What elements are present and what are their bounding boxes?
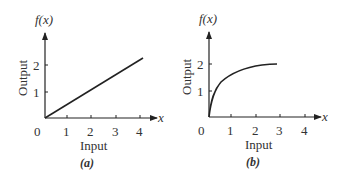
y-tick-label: 2 [197, 57, 204, 72]
x-tick-label: 1 [63, 124, 70, 139]
x-tick-label: 0 [198, 123, 205, 138]
x-tick-label: 1 [227, 123, 234, 138]
x-axis-symbol: x [157, 110, 164, 125]
figure: 0 1 2 3 4 1 2 f(x) x Input Output (a) 0 … [0, 0, 346, 179]
x-tick-label: 3 [112, 124, 119, 139]
caption-b: (b) [246, 155, 260, 169]
x-tick-label: 0 [34, 124, 41, 139]
x-tick-label: 2 [252, 123, 259, 138]
data-curve [209, 64, 277, 117]
chart-a: 0 1 2 3 4 1 2 f(x) x Input Output (a) [15, 12, 164, 170]
y-tick-label: 2 [33, 58, 40, 73]
function-label: f(x) [35, 12, 53, 27]
y-tick-label: 1 [33, 85, 40, 100]
x-axis-title: Input [245, 137, 273, 152]
data-line [45, 58, 143, 118]
x-tick-label: 3 [276, 123, 283, 138]
x-tick-label: 2 [87, 124, 94, 139]
y-axis-title: Output [179, 59, 194, 96]
x-axis-title: Input [80, 138, 108, 153]
function-label: f(x) [199, 11, 217, 26]
x-tick-label: 4 [136, 124, 143, 139]
x-axis-symbol: x [321, 109, 328, 124]
chart-b: 0 1 2 3 4 1 2 f(x) x Input Output (b) [179, 11, 328, 169]
y-axis-title: Output [15, 60, 30, 97]
x-tick-label: 4 [301, 123, 308, 138]
caption-a: (a) [80, 156, 94, 170]
y-tick-label: 1 [197, 84, 204, 99]
